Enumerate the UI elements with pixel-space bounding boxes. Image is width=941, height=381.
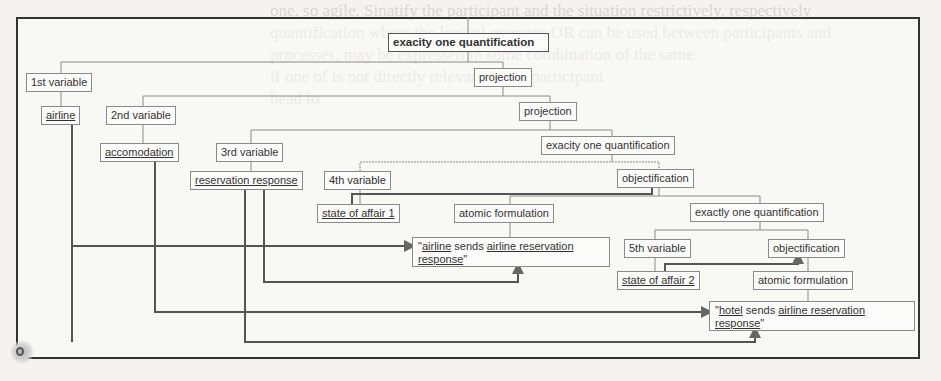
- object-term-cont: response: [715, 317, 760, 329]
- fifth-variable-node[interactable]: 5th variable: [624, 239, 691, 258]
- accomodation-term-node[interactable]: accomodation: [100, 143, 179, 162]
- second-variable-node[interactable]: 2nd variable: [106, 106, 176, 125]
- third-variable-node[interactable]: 3rd variable: [216, 143, 283, 162]
- first-variable-node[interactable]: 1st variable: [26, 73, 92, 92]
- verb: sends: [743, 304, 778, 316]
- state-of-affair-2-node[interactable]: state of affair 2: [617, 271, 700, 290]
- objectification-node-1[interactable]: objectification: [617, 169, 694, 188]
- subject-term: airline: [422, 240, 451, 252]
- object-term-cont: response: [418, 253, 463, 265]
- page-curl-icon: [10, 340, 34, 364]
- reservation-response-term-node[interactable]: reservation response: [190, 171, 303, 190]
- state-of-affair-1-node[interactable]: state of affair 1: [317, 204, 400, 223]
- subject-term: hotel: [719, 304, 743, 316]
- quantification-node-2[interactable]: exacity one quantification: [541, 136, 675, 155]
- quantification-node-3[interactable]: exactly one quantification: [690, 203, 824, 222]
- verb: sends: [451, 240, 486, 252]
- object-term: airline reservation: [487, 240, 574, 252]
- fact-statement-node-2[interactable]: "hotel sends airline reservationresponse…: [709, 301, 915, 331]
- projection-node-2[interactable]: projection: [519, 102, 577, 121]
- root-quantification-node[interactable]: exacity one quantification: [388, 33, 549, 52]
- fact-statement-node-1[interactable]: "airline sends airline reservationrespon…: [412, 237, 610, 267]
- atomic-formulation-node-1[interactable]: atomic formulation: [454, 204, 554, 223]
- object-term: airline reservation: [778, 304, 865, 316]
- objectification-node-2[interactable]: objectification: [768, 239, 845, 258]
- airline-term-node[interactable]: airline: [41, 106, 80, 125]
- quote-close: ": [463, 253, 467, 265]
- quote-close: ": [760, 317, 764, 329]
- projection-node-1[interactable]: projection: [474, 68, 532, 87]
- atomic-formulation-node-2[interactable]: atomic formulation: [753, 271, 853, 290]
- fourth-variable-node[interactable]: 4th variable: [324, 171, 391, 190]
